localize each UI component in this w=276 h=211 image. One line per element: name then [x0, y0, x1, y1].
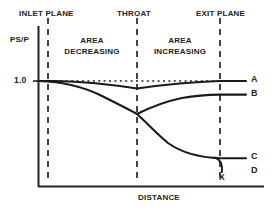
- diagram-canvas: [0, 0, 276, 211]
- station-label-exit: EXIT PLANE: [196, 10, 245, 18]
- y-axis-label: PS/P: [10, 36, 29, 44]
- curve-label-a: A: [251, 75, 258, 84]
- shock-label-x: X: [219, 173, 225, 182]
- zone-label-converging-line2: DECREASING: [60, 48, 124, 56]
- curve-label-d: D: [251, 166, 258, 175]
- y-tick-label-1-0: 1.0: [14, 76, 26, 85]
- zone-label-converging-line1: AREA: [60, 37, 124, 45]
- x-axis-label: DISTANCE: [138, 194, 180, 202]
- curve-c: [137, 114, 246, 158]
- curve-b: [39, 81, 247, 114]
- station-label-throat: THROAT: [117, 10, 151, 18]
- zone-label-diverging-line2: INCREASING: [149, 48, 211, 56]
- curve-label-b: B: [251, 89, 258, 98]
- curve-label-c: C: [251, 152, 258, 161]
- curve-d-shock-hook: [215, 158, 223, 173]
- nozzle-pressure-diagram: INLET PLANE THROAT EXIT PLANE PS/P 1.0 A…: [0, 0, 276, 211]
- station-label-inlet: INLET PLANE: [19, 10, 74, 18]
- zone-label-diverging-line1: AREA: [149, 37, 211, 45]
